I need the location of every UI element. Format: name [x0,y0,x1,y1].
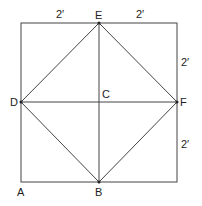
label-A: A [17,186,25,198]
dimension-right-lower: 2′ [181,138,189,150]
dimension-top-left: 2′ [56,8,64,20]
vertex-F-dot [176,101,179,104]
vertex-E-dot [98,22,101,25]
square-diamond-diagram: E D F C A B 2′ 2′ 2′ 2′ [0,0,202,206]
dimension-top-right: 2′ [136,8,144,20]
label-F: F [180,96,187,108]
label-B: B [95,186,102,198]
label-E: E [95,9,102,21]
label-C: C [102,88,110,100]
vertex-D-dot [20,101,23,104]
dimension-right-upper: 2′ [181,56,189,68]
vertex-B-dot [98,181,101,184]
label-D: D [10,96,18,108]
